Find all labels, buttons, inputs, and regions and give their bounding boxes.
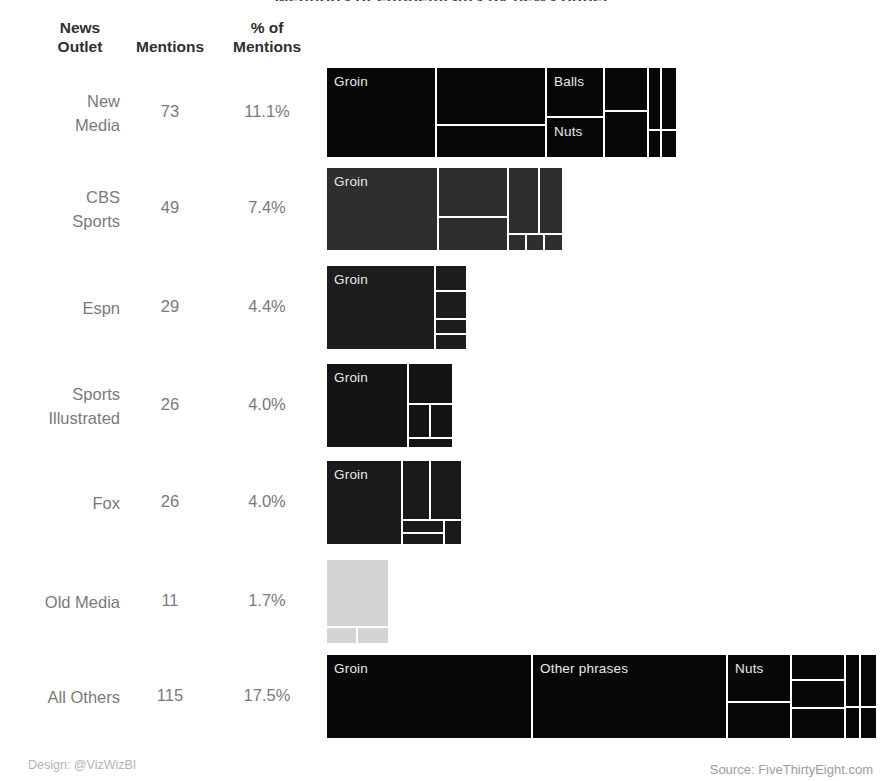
treemap-tile[interactable] [409,439,452,447]
treemap-tile[interactable] [445,521,461,544]
treemap-tile-groin[interactable]: Groin [327,68,435,157]
treemap[interactable] [327,560,388,643]
treemap-tile[interactable] [846,655,859,706]
treemap-tile-groin[interactable]: Groin [327,168,437,250]
row-value-percent: 4.0% [222,395,312,414]
treemap-tile-label: Groin [334,74,368,89]
row-value-mentions: 115 [126,686,214,705]
treemap-tile-groin[interactable]: Groin [327,364,407,447]
treemap-tile[interactable] [403,534,443,544]
row-label-line1: Fox [92,494,120,512]
treemap-tile[interactable] [792,709,844,738]
treemap-tile-groin[interactable]: Groin [327,461,401,544]
treemap-tile[interactable] [846,708,859,738]
row-label-line1: Old Media [45,593,120,611]
column-header-outlet: News Outlet [40,18,120,56]
table-row[interactable]: CBSSports497.4%Groin [0,168,883,250]
row-value-mentions: 26 [126,492,214,511]
row-label-outlet: All Others [20,685,120,709]
row-value-percent: 11.1% [222,102,312,121]
treemap-tile-label: Other phrases [540,661,628,676]
row-label-outlet: NewMedia [20,89,120,137]
table-row[interactable]: All Others11517.5%GroinOther phrasesNuts [0,655,883,738]
treemap-tile[interactable] [509,235,525,250]
treemap-tile[interactable] [403,521,443,532]
treemap-tile[interactable] [509,168,538,233]
treemap-tile[interactable] [358,628,388,643]
treemap-tile-nuts[interactable]: Nuts [728,655,790,701]
treemap-tile[interactable] [437,68,545,124]
treemap-tile-label: Balls [554,74,584,89]
column-header-percent-line1: % of [251,19,284,36]
row-label-line1: All Others [48,688,120,706]
row-label-outlet: Fox [20,491,120,515]
treemap-tile[interactable] [327,628,356,643]
row-label-line2: Media [20,113,120,137]
treemap-tile-nuts[interactable]: Nuts [547,118,603,157]
treemap-tile[interactable] [649,68,660,129]
treemap-tile[interactable] [403,461,429,519]
column-header-outlet-line1: News [60,19,101,36]
column-header-mentions-label: Mentions [136,38,204,55]
table-row[interactable]: SportsIllustrated264.0%Groin [0,364,883,447]
treemap-tile[interactable] [861,655,876,706]
treemap-tile-balls[interactable]: Balls [547,68,603,116]
treemap-tile[interactable] [439,218,507,250]
row-value-mentions: 73 [126,102,214,121]
treemap-tile[interactable] [540,168,562,233]
treemap-tile-label: Nuts [554,124,583,139]
row-label-line1: New [87,92,120,110]
row-label-line1: Sports [72,385,120,403]
treemap-tile[interactable] [409,364,452,403]
row-label-line1: CBS [86,188,120,206]
column-header-mentions: Mentions [126,37,214,56]
treemap-tile[interactable] [792,681,844,707]
treemap-tile[interactable] [327,560,388,626]
treemap[interactable]: GroinOther phrasesNuts [327,655,876,738]
treemap-tile[interactable] [436,320,466,333]
table-row[interactable]: NewMedia7311.1%GroinBallsNuts [0,68,883,157]
treemap[interactable]: Groin [327,266,466,349]
treemap-tile-label: Nuts [735,661,764,676]
design-credit: Design: @VizWizBI [28,758,136,772]
row-value-percent: 17.5% [222,686,312,705]
treemap-tile-groin[interactable]: Groin [327,655,531,738]
treemap[interactable]: Groin [327,364,452,447]
treemap-tile[interactable] [436,266,466,290]
treemap-tile[interactable] [437,126,545,157]
treemap-tile[interactable] [436,292,466,318]
table-row[interactable]: Fox264.0%Groin [0,461,883,544]
column-header-percent: % of Mentions [222,18,312,56]
row-value-mentions: 11 [126,591,214,610]
treemap[interactable]: Groin [327,461,461,544]
chart-title: Mentions of euphemisms by news outlet [0,0,883,1]
treemap-tile[interactable] [545,235,562,250]
row-label-outlet: CBSSports [20,185,120,233]
treemap-tile[interactable] [861,708,876,738]
row-value-mentions: 49 [126,198,214,217]
treemap-tile[interactable] [728,703,790,738]
treemap-tile[interactable] [662,131,676,157]
treemap-tile[interactable] [431,461,461,519]
treemap[interactable]: Groin [327,168,562,250]
treemap-tile[interactable] [649,131,660,157]
treemap-tile[interactable] [605,68,647,110]
treemap-tile-other-phrases[interactable]: Other phrases [533,655,726,738]
table-row[interactable]: Espn294.4%Groin [0,266,883,349]
treemap-tile[interactable] [431,405,452,437]
row-value-percent: 7.4% [222,198,312,217]
row-label-line1: Espn [82,299,120,317]
treemap-tile[interactable] [527,235,543,250]
treemap-tile[interactable] [439,168,507,216]
treemap-tile[interactable] [605,112,647,157]
treemap-tile[interactable] [436,335,466,349]
treemap-tile[interactable] [662,68,676,129]
treemap-tile[interactable] [792,655,844,679]
row-label-line2: Illustrated [20,406,120,430]
treemap[interactable]: GroinBallsNuts [327,68,676,157]
treemap-tile-groin[interactable]: Groin [327,266,434,349]
table-row[interactable]: Old Media111.7% [0,560,883,643]
treemap-tile-label: Groin [334,272,368,287]
row-value-percent: 1.7% [222,591,312,610]
treemap-tile[interactable] [409,405,429,437]
